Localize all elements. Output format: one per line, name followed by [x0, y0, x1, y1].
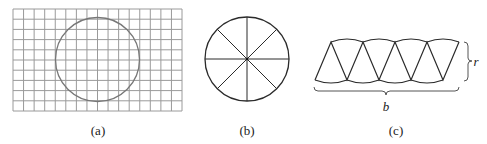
panel-label-b: (b) — [239, 123, 254, 138]
height-brace — [464, 42, 472, 81]
panel-label-a: (a) — [91, 123, 105, 138]
sector-edges — [315, 42, 459, 80]
base-brace — [314, 87, 459, 95]
center-point — [246, 58, 249, 61]
panel-a: (a) — [13, 9, 182, 138]
panel-b: (b) — [205, 17, 289, 138]
figure-canvas: (a) (b) r b (c) — [0, 0, 487, 144]
grid — [13, 9, 182, 111]
panel-c — [314, 39, 472, 95]
base-label-b: b — [383, 99, 390, 114]
height-label-r: r — [473, 54, 479, 69]
panel-label-c: (c) — [389, 123, 403, 138]
